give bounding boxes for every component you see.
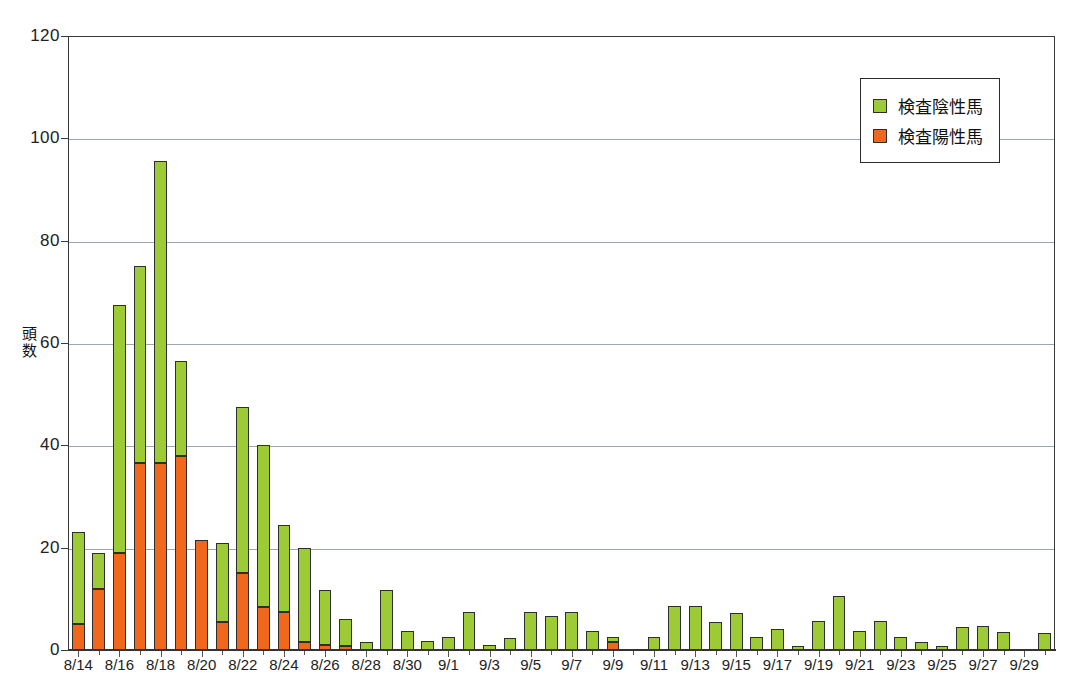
bar-column[interactable] bbox=[1038, 633, 1051, 650]
bar-segment-negative bbox=[401, 631, 414, 650]
bar-column[interactable] bbox=[709, 622, 722, 650]
bar-segment-positive bbox=[113, 553, 126, 650]
bar-segment-negative bbox=[689, 606, 702, 650]
bar-segment-negative bbox=[216, 543, 229, 622]
y-axis-tick-label: 0 bbox=[50, 640, 60, 660]
legend-item[interactable]: 検査陰性馬 bbox=[873, 93, 983, 118]
bar-segment-negative bbox=[92, 553, 105, 589]
x-axis-tick-label: 8/24 bbox=[269, 656, 298, 673]
bar-segment-negative bbox=[545, 616, 558, 650]
bar-column[interactable] bbox=[997, 632, 1010, 650]
legend-swatch-icon bbox=[873, 99, 887, 113]
bar-column[interactable] bbox=[853, 631, 866, 650]
x-axis-tick-label: 9/29 bbox=[1010, 656, 1039, 673]
bar-column[interactable] bbox=[175, 361, 188, 650]
bar-column[interactable] bbox=[463, 612, 476, 650]
x-axis-tick-label: 8/30 bbox=[393, 656, 422, 673]
y-axis-title: 頭数 bbox=[18, 325, 40, 359]
bar-segment-negative bbox=[607, 637, 620, 642]
bar-segment-negative bbox=[565, 612, 578, 650]
x-axis-tick-label: 8/28 bbox=[352, 656, 381, 673]
y-axis-tick-label: 120 bbox=[30, 26, 60, 46]
bar-column[interactable] bbox=[771, 629, 784, 650]
x-axis-tick-label: 9/27 bbox=[968, 656, 997, 673]
x-axis-tick-label: 9/9 bbox=[602, 656, 623, 673]
bar-column[interactable] bbox=[298, 548, 311, 650]
bar-segment-negative bbox=[278, 525, 291, 612]
x-axis-tick-label: 9/13 bbox=[681, 656, 710, 673]
bar-column[interactable] bbox=[730, 613, 743, 650]
bar-segment-negative bbox=[730, 613, 743, 650]
bar-segment-negative bbox=[298, 548, 311, 643]
bar-column[interactable] bbox=[648, 637, 661, 650]
y-axis-tick-mark bbox=[61, 445, 69, 446]
y-axis-tick-mark bbox=[61, 241, 69, 242]
bar-segment-negative bbox=[72, 532, 85, 624]
bar-column[interactable] bbox=[977, 626, 990, 650]
legend-item-label: 検査陰性馬 bbox=[898, 93, 983, 118]
bar-column[interactable] bbox=[750, 637, 763, 650]
bar-segment-negative bbox=[812, 621, 825, 650]
bar-column[interactable] bbox=[154, 161, 167, 650]
bar-column[interactable] bbox=[319, 590, 332, 650]
bar-segment-negative bbox=[380, 590, 393, 650]
legend-item-label: 検査陽性馬 bbox=[898, 123, 983, 148]
bar-column[interactable] bbox=[216, 543, 229, 650]
bar-column[interactable] bbox=[689, 606, 702, 650]
bar-column[interactable] bbox=[956, 627, 969, 650]
bar-column[interactable] bbox=[545, 616, 558, 650]
y-axis-tick-label: 80 bbox=[40, 231, 60, 251]
legend-item[interactable]: 検査陽性馬 bbox=[873, 123, 983, 148]
x-axis-tick-label: 9/7 bbox=[561, 656, 582, 673]
bar-segment-positive bbox=[278, 612, 291, 650]
x-axis-tick-label: 9/17 bbox=[763, 656, 792, 673]
legend-swatch-icon bbox=[873, 129, 887, 143]
x-axis-tick-label: 9/23 bbox=[886, 656, 915, 673]
bar-column[interactable] bbox=[339, 619, 352, 650]
bar-segment-negative bbox=[709, 622, 722, 650]
y-axis-tick-label: 40 bbox=[40, 435, 60, 455]
bar-segment-negative bbox=[154, 161, 167, 463]
bar-column[interactable] bbox=[812, 621, 825, 650]
x-axis-tick-label: 8/16 bbox=[105, 656, 134, 673]
x-axis-tick-label: 9/1 bbox=[438, 656, 459, 673]
bar-column[interactable] bbox=[833, 596, 846, 650]
chart-legend: 検査陰性馬検査陽性馬 bbox=[860, 78, 1000, 163]
bar-segment-negative bbox=[977, 626, 990, 650]
bar-segment-negative bbox=[668, 606, 681, 650]
bar-column[interactable] bbox=[257, 445, 270, 650]
bar-column[interactable] bbox=[874, 621, 887, 650]
bar-segment-negative bbox=[257, 445, 270, 606]
bar-segment-positive bbox=[72, 624, 85, 650]
bar-column[interactable] bbox=[92, 553, 105, 650]
x-axis-tick-label: 8/22 bbox=[228, 656, 257, 673]
x-axis-tick-label: 9/21 bbox=[845, 656, 874, 673]
x-axis-tick-label: 8/18 bbox=[146, 656, 175, 673]
bar-column[interactable] bbox=[668, 606, 681, 650]
bar-segment-positive bbox=[154, 463, 167, 650]
bar-column[interactable] bbox=[236, 407, 249, 650]
y-axis-tick-mark bbox=[61, 548, 69, 549]
y-axis-tick-label: 20 bbox=[40, 538, 60, 558]
bar-column[interactable] bbox=[134, 266, 147, 650]
bar-column[interactable] bbox=[195, 540, 208, 650]
y-axis-tick-mark bbox=[61, 343, 69, 344]
y-axis-tick-mark bbox=[61, 36, 69, 37]
chart-container: 頭数 検査陰性馬検査陽性馬 0204060801001208/148/168/1… bbox=[0, 0, 1073, 696]
bar-column[interactable] bbox=[524, 612, 537, 650]
x-axis-tick-label: 9/3 bbox=[479, 656, 500, 673]
x-axis-tick-label: 9/19 bbox=[804, 656, 833, 673]
bar-segment-negative bbox=[874, 621, 887, 650]
bar-column[interactable] bbox=[72, 532, 85, 650]
bar-column[interactable] bbox=[380, 590, 393, 650]
bar-column[interactable] bbox=[565, 612, 578, 650]
bar-column[interactable] bbox=[401, 631, 414, 650]
bar-segment-positive bbox=[216, 622, 229, 650]
bar-column[interactable] bbox=[278, 525, 291, 650]
bar-column[interactable] bbox=[113, 305, 126, 650]
bar-segment-negative bbox=[1038, 633, 1051, 650]
bar-column[interactable] bbox=[586, 631, 599, 650]
y-axis-tick-label: 60 bbox=[40, 333, 60, 353]
bar-segment-negative bbox=[997, 632, 1010, 650]
bar-segment-positive bbox=[257, 607, 270, 650]
